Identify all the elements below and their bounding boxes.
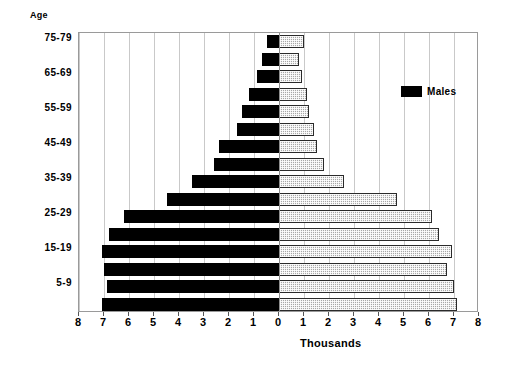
x-axis-title: Thousands [300,337,361,349]
x-axis-tick-label: 7 [443,316,463,328]
bar-row [79,210,477,223]
legend-label: Males [427,86,456,97]
bar-female [279,35,304,48]
x-axis-tick-label: 3 [343,316,363,328]
bar-female [279,88,307,101]
y-axis-tick-label: 65-69 [2,67,72,78]
bar-male [214,158,279,171]
bar-male [124,210,279,223]
y-axis-tick-label: 5-9 [2,277,72,288]
x-axis-tick-label: 5 [393,316,413,328]
legend-entry: Males [401,86,456,97]
bar-row [79,263,477,276]
y-axis-tick-label: 55-59 [2,102,72,113]
bar-female [279,210,432,223]
x-axis-tick-label: 0 [268,316,288,328]
x-axis-tick-label: 4 [168,316,188,328]
bar-row [79,123,477,136]
chart-legend: MalesFemales [401,83,478,99]
x-axis-tick-label: 2 [318,316,338,328]
bar-female [279,158,324,171]
bar-male [102,245,280,258]
bar-female [279,280,454,293]
bar-row [79,228,477,241]
x-axis-tick-label: 6 [418,316,438,328]
bar-row [79,35,477,48]
y-axis-tick-label: 75-79 [2,32,72,43]
bar-row [79,140,477,153]
population-pyramid-chart: Age 5-915-1925-2935-3945-4955-5965-6975-… [0,0,522,367]
bar-row [79,193,477,206]
bar-row [79,245,477,258]
zero-axis-line [279,33,280,311]
bar-row [79,53,477,66]
bar-male [109,228,279,241]
bar-female [279,193,397,206]
y-axis-tick-label: 15-19 [2,242,72,253]
bar-row [79,158,477,171]
male-swatch [401,86,422,97]
plot-area: MalesFemales [78,32,478,312]
bar-female [279,105,309,118]
x-axis-tick-label: 8 [468,316,488,328]
bar-row [79,280,477,293]
x-axis-tick-label: 1 [293,316,313,328]
y-axis-tick-label: 25-29 [2,207,72,218]
x-axis-tick-label: 7 [93,316,113,328]
x-axis-tick-label: 5 [143,316,163,328]
y-axis-tick-label: 45-49 [2,137,72,148]
bar-male [219,140,279,153]
x-axis-tick-label: 1 [243,316,263,328]
bar-male [192,175,280,188]
bar-male [267,35,280,48]
bar-male [167,193,280,206]
bar-female [279,140,317,153]
bar-row [79,175,477,188]
bar-male [237,123,280,136]
bar-female [279,298,457,311]
bar-female [279,53,299,66]
bar-female [279,228,439,241]
bar-female [279,70,302,83]
bar-row [79,105,477,118]
bar-female [279,175,344,188]
bar-male [102,298,280,311]
bar-male [242,105,280,118]
x-axis-tick-label: 6 [118,316,138,328]
bar-male [249,88,279,101]
bar-male [107,280,280,293]
bar-row [79,298,477,311]
x-axis-tick-label: 4 [368,316,388,328]
y-axis-tick-label: 35-39 [2,172,72,183]
bar-female [279,263,447,276]
x-axis-tick-label: 3 [193,316,213,328]
bar-female [279,245,452,258]
x-axis-tick-label: 2 [218,316,238,328]
y-axis-tick-labels: 5-915-1925-2935-3945-4955-5965-6975-79 [0,32,72,312]
bar-male [104,263,279,276]
bar-male [262,53,280,66]
bar-female [279,123,314,136]
bar-male [257,70,280,83]
x-axis-tick-labels: 87654321012345678 [78,316,478,334]
bar-row [79,70,477,83]
x-axis-tick-label: 8 [68,316,88,328]
y-axis-title: Age [30,10,48,20]
